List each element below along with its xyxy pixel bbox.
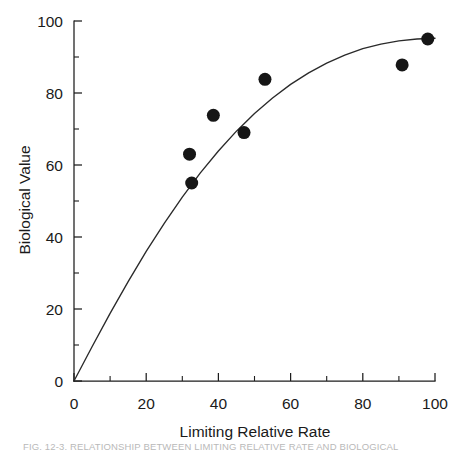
x-axis-minor-ticks [110,376,399,381]
figure-container: 020406080100 020406080100 Limiting Relat… [0,0,461,455]
x-tick-label: 100 [422,395,448,412]
y-tick-label: 80 [46,85,64,102]
x-tick-label: 20 [138,395,156,412]
y-tick-label: 0 [54,373,63,390]
y-tick-label: 60 [46,157,64,174]
data-point [396,58,409,71]
y-axis-tick-labels: 020406080100 [37,13,63,390]
data-point [421,33,434,46]
y-tick-label: 20 [46,301,64,318]
y-tick-label: 100 [37,13,63,30]
x-tick-label: 60 [282,395,300,412]
x-tick-label: 40 [210,395,228,412]
y-tick-label: 40 [46,229,64,246]
x-tick-label: 0 [70,395,79,412]
x-axis-title: Limiting Relative Rate [180,423,331,440]
x-tick-label: 80 [354,395,372,412]
data-point [183,148,196,161]
data-point [207,109,220,122]
data-points [183,33,434,190]
y-axis-title: Biological Value [16,145,33,254]
data-point [258,73,271,86]
data-point [185,177,198,190]
x-axis-tick-labels: 020406080100 [70,395,449,412]
scatter-plot: 020406080100 020406080100 Limiting Relat… [0,0,461,455]
data-point [238,126,251,139]
y-axis-minor-ticks [74,57,79,345]
fitted-curve [74,38,435,381]
